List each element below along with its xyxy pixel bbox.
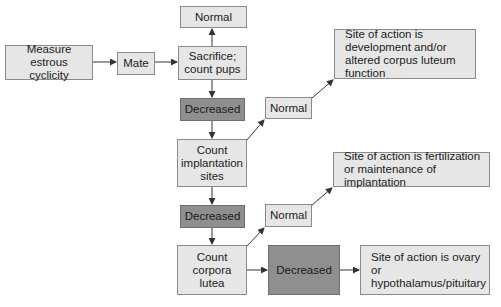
- sacrifice-node: Sacrifice; count pups: [178, 46, 247, 80]
- decreased-1-node: Decreased: [180, 98, 245, 121]
- site-3-node: Site of action is ovary or hypothalamus/…: [360, 245, 490, 295]
- arrow-implantation-to-normal: [247, 120, 264, 140]
- mate-node: Mate: [117, 52, 155, 75]
- normal-mid-node: Normal: [265, 97, 312, 119]
- normal-low-node: Normal: [265, 204, 312, 227]
- normal-top-node: Normal: [180, 6, 247, 28]
- arrow-corpora-to-normal: [247, 228, 264, 246]
- site-2-node: Site of action is fertilization or maint…: [333, 152, 490, 187]
- arrow-normal-to-site1: [312, 80, 333, 98]
- count-implantation-node: Count implantation sites: [177, 139, 247, 187]
- count-corpora-node: Count corpora lutea: [177, 245, 247, 295]
- site-1-node: Site of action is development and/or alt…: [334, 29, 476, 79]
- decreased-3-node: Decreased: [268, 245, 340, 295]
- decreased-2-node: Decreased: [180, 205, 245, 228]
- arrow-normal-to-site2: [312, 188, 332, 205]
- measure-estrous-node: Measure estrous cyclicity: [5, 45, 93, 80]
